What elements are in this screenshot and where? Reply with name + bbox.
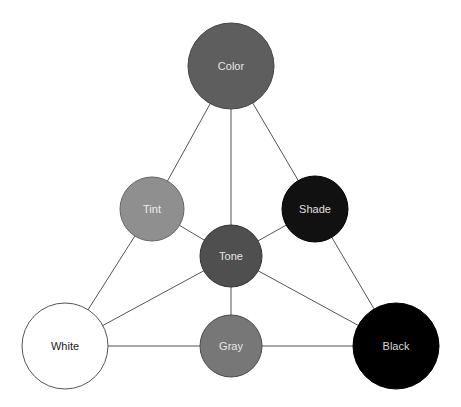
black-label: Black [383, 340, 410, 352]
white-label: White [51, 340, 79, 352]
color-diagram: ColorTintShadeToneWhiteGrayBlack [0, 0, 461, 407]
color-label: Color [218, 60, 245, 72]
tint-label: Tint [143, 203, 161, 215]
tone-label: Tone [219, 250, 243, 262]
node-tint: Tint [120, 177, 184, 241]
gray-label: Gray [219, 340, 243, 352]
node-gray: Gray [200, 315, 262, 377]
node-white: White [22, 303, 108, 389]
node-color: Color [188, 23, 274, 109]
shade-label: Shade [299, 203, 331, 215]
node-black: Black [353, 303, 439, 389]
node-tone: Tone [200, 225, 262, 287]
node-shade: Shade [282, 176, 348, 242]
